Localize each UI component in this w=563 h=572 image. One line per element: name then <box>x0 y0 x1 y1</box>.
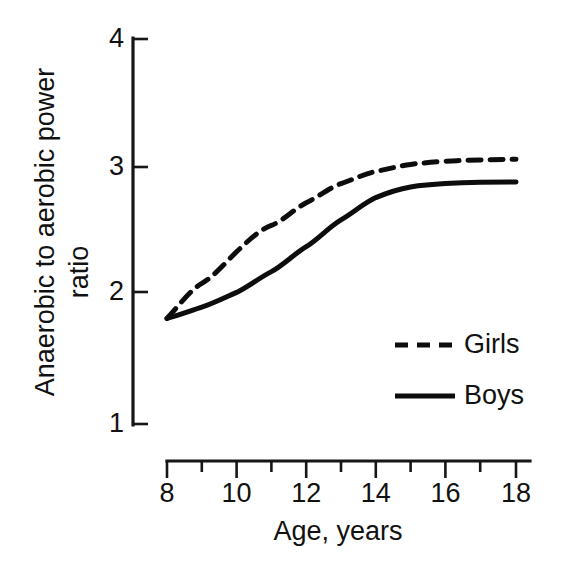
series-line-boys <box>167 182 516 319</box>
y-tick-label-1: 1 <box>109 408 124 438</box>
chart-figure: 4 3 2 1 Anaerobic to aerobic power ratio… <box>0 0 563 572</box>
y-axis-title-line2: ratio <box>64 246 94 299</box>
y-tick-label-3: 3 <box>109 151 124 181</box>
y-tick-label-2: 2 <box>109 276 124 306</box>
y-axis-title: Anaerobic to aerobic power ratio <box>30 68 94 397</box>
x-axis: 8 10 12 14 16 18 <box>159 461 531 508</box>
y-axis-title-line1: Anaerobic to aerobic power <box>30 68 60 397</box>
series-group <box>167 159 516 318</box>
x-tick-label-8: 8 <box>159 478 174 508</box>
x-tick-label-14: 14 <box>361 478 391 508</box>
legend-label-girls: Girls <box>464 329 520 359</box>
legend: Girls Boys <box>395 329 524 410</box>
legend-item-girls[interactable]: Girls <box>395 329 520 359</box>
line-chart: 4 3 2 1 Anaerobic to aerobic power ratio… <box>0 0 563 572</box>
x-tick-label-18: 18 <box>501 478 531 508</box>
x-axis-title: Age, years <box>273 516 402 546</box>
legend-label-boys: Boys <box>464 380 524 410</box>
x-tick-label-12: 12 <box>291 478 321 508</box>
y-tick-label-4: 4 <box>109 23 124 53</box>
y-axis: 4 3 2 1 <box>109 23 148 438</box>
x-tick-label-10: 10 <box>222 478 252 508</box>
x-tick-label-16: 16 <box>430 478 460 508</box>
legend-item-boys[interactable]: Boys <box>395 380 524 410</box>
